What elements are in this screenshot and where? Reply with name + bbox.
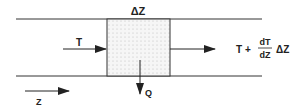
heat-loss-label: Q: [145, 88, 152, 98]
outflow-denominator-label: dZ: [260, 50, 271, 60]
outflow-suffix-label: ΔZ: [276, 44, 289, 55]
outflow-prefix-label: T +: [236, 44, 251, 55]
outflow-numerator-label: dT: [260, 37, 271, 47]
delta-z-label: ΔZ: [131, 5, 146, 17]
control-volume-box: [107, 19, 170, 76]
inflow-label: T: [76, 37, 82, 48]
z-axis-label: Z: [36, 97, 42, 107]
energy-balance-diagram: ΔZ T T + dT dZ ΔZ Q Z: [0, 0, 300, 109]
